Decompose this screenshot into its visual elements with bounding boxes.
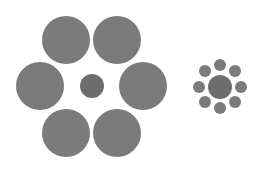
left-surround-circle (42, 16, 90, 64)
right-surround-circle (199, 96, 211, 108)
left-surround-circle (93, 109, 141, 157)
right-surround-circle (229, 65, 241, 77)
right-surround-circle (193, 81, 205, 93)
left-center-circle (80, 74, 104, 98)
left-surround-circle (93, 16, 141, 64)
right-surround-circle (235, 81, 247, 93)
left-surround-circle (42, 109, 90, 157)
left-circle-group (16, 16, 167, 157)
right-surround-circle (214, 102, 226, 114)
right-surround-circle (214, 59, 226, 71)
right-surround-circle (199, 65, 211, 77)
ebbinghaus-illusion-diagram (0, 0, 261, 174)
right-center-circle (208, 75, 232, 99)
right-circle-group (193, 59, 247, 114)
left-surround-circle (16, 62, 64, 110)
left-surround-circle (119, 62, 167, 110)
right-surround-circle (229, 96, 241, 108)
